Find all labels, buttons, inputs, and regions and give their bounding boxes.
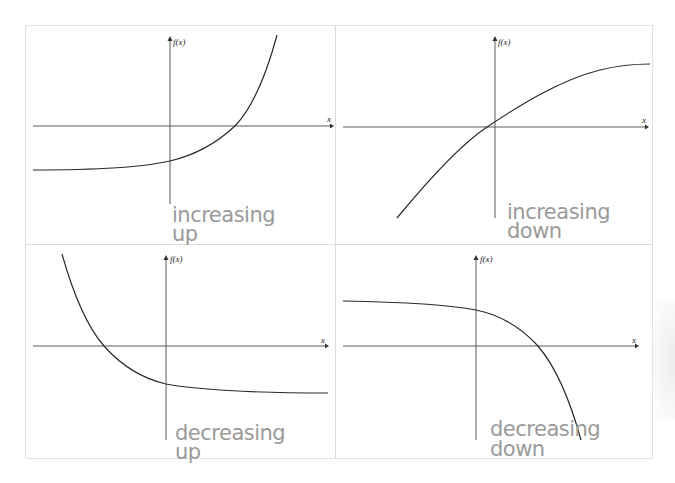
- y-axis-arrow-icon: [474, 255, 479, 260]
- panel-decreasing-down: f(x) x decreasing down: [0, 0, 675, 483]
- note-line2: down: [490, 437, 545, 461]
- x-axis-label: x: [631, 335, 636, 345]
- axes: [343, 255, 639, 440]
- y-axis-label: f(x): [480, 254, 493, 264]
